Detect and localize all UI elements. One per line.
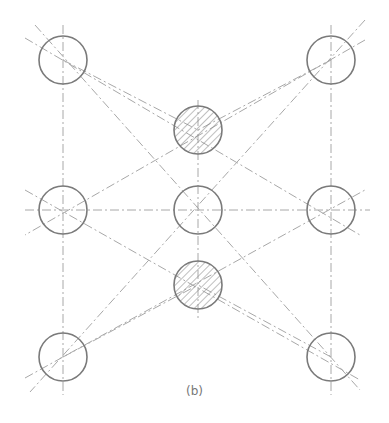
figure-caption: (b) — [0, 384, 389, 398]
hatched-hole-upper-center — [174, 106, 222, 154]
hatched-hole-lower-center — [174, 261, 222, 309]
centerlines — [25, 20, 370, 395]
bolt-pattern-diagram — [0, 0, 389, 423]
